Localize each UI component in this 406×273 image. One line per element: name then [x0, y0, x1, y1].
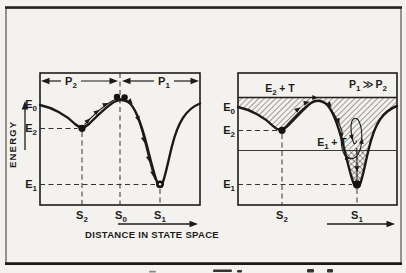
energy-axis-title: ENERGY	[7, 121, 18, 168]
figure-canvas: P2 P1 E0 E2 E1 S2 S0 S1	[0, 0, 406, 273]
barrier-top-dot-1	[114, 94, 120, 100]
s1-minimum-dot-right	[353, 180, 361, 188]
cropped-caption-remnants	[149, 269, 333, 273]
distance-axis-title: DISTANCE IN STATE SPACE	[85, 229, 219, 240]
s2-minimum-dot-right	[278, 127, 285, 134]
barrier-top-dot-2	[121, 94, 127, 100]
figure-page: P2 P1 E0 E2 E1 S2 S0 S1	[0, 0, 406, 273]
s1-minimum-dot-center	[159, 183, 161, 185]
s2-minimum-dot	[78, 125, 85, 132]
